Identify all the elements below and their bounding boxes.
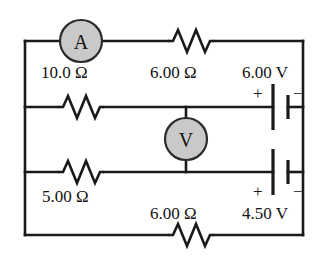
resistor-top-left-label: 10.0 Ω: [41, 64, 88, 81]
battery-lower-label: 4.50 V: [242, 205, 288, 222]
ammeter-letter: A: [74, 31, 89, 53]
resistor-middle-left-label: 5.00 Ω: [42, 188, 89, 205]
circuit-diagram: A V 10.0 Ω 6.00 Ω 6.00 V + − 5.00 Ω + − …: [0, 0, 326, 262]
battery-upper-minus-sign: −: [293, 85, 303, 102]
resistor-bottom-symbol: [168, 224, 214, 246]
battery-lower-plus-sign: +: [253, 183, 263, 200]
resistor-bottom-label: 6.00 Ω: [150, 205, 197, 222]
resistor-middle-left-5ohm-symbol: [58, 161, 104, 183]
battery-lower-minus-sign: −: [293, 183, 303, 200]
battery-upper-plus-sign: +: [253, 85, 263, 102]
resistor-middle-left-symbol: [58, 96, 104, 118]
battery-upper-label: 6.00 V: [242, 64, 288, 81]
resistor-top-right-symbol: [168, 30, 214, 52]
resistor-top-right-label: 6.00 Ω: [150, 64, 197, 81]
voltmeter-letter: V: [179, 129, 194, 151]
